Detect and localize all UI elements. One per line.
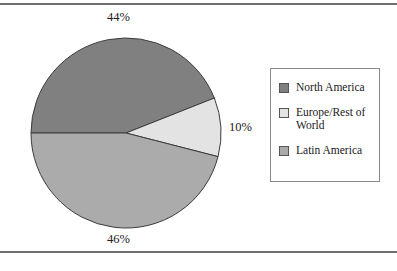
- slice-value-label-latin-america: 46%: [107, 233, 130, 246]
- legend-item-label: Europe/Rest of World: [296, 106, 378, 132]
- legend-item: North America: [279, 81, 379, 94]
- slice-value-label-north-america: 44%: [107, 11, 130, 24]
- legend-item: Latin America: [279, 144, 379, 157]
- figure-bottom-rule: [0, 251, 397, 253]
- pie-chart-graphic: [30, 37, 222, 229]
- chart-legend: North AmericaEurope/Rest of WorldLatin A…: [270, 68, 380, 182]
- legend-swatch-icon: [279, 146, 289, 156]
- legend-item-label: Latin America: [296, 144, 362, 157]
- legend-item: Europe/Rest of World: [279, 106, 379, 132]
- slice-value-label-europe: 10%: [229, 121, 252, 134]
- legend-swatch-icon: [279, 83, 289, 93]
- figure-top-rule: [0, 3, 397, 5]
- legend-item-list: North AmericaEurope/Rest of WorldLatin A…: [279, 81, 379, 157]
- legend-swatch-icon: [279, 108, 289, 118]
- pie-svg: [30, 37, 222, 229]
- pie-slice-group: [31, 38, 221, 228]
- legend-item-label: North America: [296, 81, 365, 94]
- pie-chart-figure: 44% 46% 10% North AmericaEurope/Rest of …: [0, 0, 397, 271]
